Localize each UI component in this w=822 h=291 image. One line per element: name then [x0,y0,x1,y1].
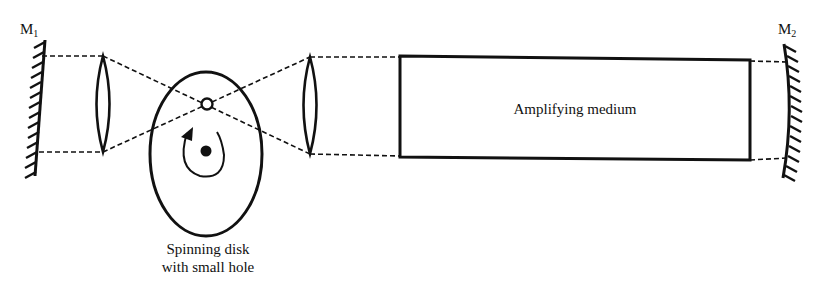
mirror-m1 [25,40,45,178]
medium-label: Amplifying medium [514,101,637,117]
disk-axis-dot [201,146,212,157]
mirror-m2-label: M2 [778,21,796,39]
laser-cavity-diagram: M1 M2 Amplifying medium Spinning disk wi… [0,0,822,291]
mirror-m2 [783,44,802,181]
spinning-disk [150,72,262,236]
small-hole [202,99,213,110]
disk-caption-line1: Spinning disk [167,241,250,257]
lens-1 [97,56,110,152]
disk-caption-line2: with small hole [162,259,255,275]
lens-2 [304,57,317,154]
mirror-m1-label: M1 [20,21,38,39]
